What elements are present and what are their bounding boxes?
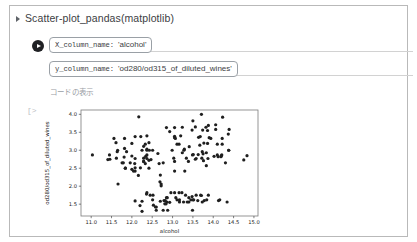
scatter-point (137, 115, 140, 118)
y-axis-tick-label: 3.5 (69, 129, 77, 135)
x-axis-tick-label: 12.0 (126, 219, 138, 225)
scatter-point (198, 144, 201, 147)
x-axis-label: alcohol (160, 228, 179, 234)
scatter-point (116, 182, 119, 185)
scatter-point (191, 209, 194, 212)
scatter-point (159, 200, 162, 203)
scatter-point (108, 153, 111, 156)
scatter-point (195, 194, 198, 197)
scatter-point (142, 145, 145, 148)
scatter-point (199, 135, 202, 138)
scatter-point (137, 174, 140, 177)
scatter-point (139, 135, 142, 138)
x-column-value[interactable]: 'alcohol' (118, 40, 146, 49)
scatter-point (138, 204, 141, 207)
scatter-point (217, 199, 220, 202)
scatter-point (132, 169, 135, 172)
scatter-point (242, 158, 245, 161)
scatter-point (221, 137, 224, 140)
scatter-point (224, 161, 227, 164)
scatter-point (115, 157, 118, 160)
scatter-point (162, 161, 165, 164)
scatter-point (140, 149, 143, 152)
y-column-label: y_column_name: (55, 65, 114, 73)
x-axis-tick-label: 11.5 (106, 219, 118, 225)
play-triangle-icon (37, 44, 41, 48)
scatter-point (201, 150, 204, 153)
scatter-point (194, 158, 197, 161)
scatter-point (191, 153, 194, 156)
scatter-point (133, 162, 136, 165)
scatter-point (134, 199, 137, 202)
scatter-point (140, 200, 143, 203)
scatter-points-group (91, 113, 249, 213)
scatter-point (206, 142, 209, 145)
y-axis-tick-label: 1.5 (69, 201, 77, 207)
scatter-point (182, 200, 185, 203)
x-column-label: X_column_name: (55, 41, 114, 49)
scatter-point (162, 209, 165, 212)
section-header[interactable]: Scatter-plot_pandas(matplotlib) (16, 12, 174, 24)
scatter-point (158, 162, 161, 165)
scatter-point (183, 148, 186, 151)
scatter-point (173, 160, 176, 163)
y-axis-tick-label: 3.0 (69, 147, 77, 153)
x-column-field[interactable]: X_column_name: 'alcohol' (49, 37, 152, 53)
scatter-point (160, 184, 163, 187)
scatter-point (187, 196, 190, 199)
scatter-point (179, 134, 182, 137)
scatter-point (200, 157, 203, 160)
scatter-point (134, 166, 137, 169)
scatter-point (214, 128, 217, 131)
scatter-point (205, 151, 208, 154)
scatter-point (164, 202, 167, 205)
scatter-point (91, 153, 94, 156)
x-axis-tick-label: 14.0 (207, 219, 219, 225)
scatter-point (145, 157, 148, 160)
play-circle-icon[interactable] (32, 40, 44, 52)
scatter-point (164, 199, 167, 202)
scatter-point (196, 199, 199, 202)
scatter-point (156, 152, 159, 155)
scatter-point (114, 141, 117, 144)
scatter-point (149, 194, 152, 197)
scatter-point (201, 200, 204, 203)
scatter-point (212, 155, 215, 158)
scatter-point (151, 198, 154, 201)
scatter-point (151, 149, 154, 152)
scatter-point (190, 195, 193, 198)
scatter-point (206, 129, 209, 132)
scatter-point (187, 200, 190, 203)
form-row-x-column: X_column_name: 'alcohol' (49, 37, 413, 53)
scatter-point (148, 149, 151, 152)
scatter-point (216, 143, 219, 146)
triangle-right-icon[interactable] (16, 16, 20, 22)
y-axis-tick-label: 4.0 (69, 111, 77, 117)
scatter-plot-figure: 11.011.512.012.513.013.514.014.515.01.52… (40, 102, 265, 240)
screenshot-root: Scatter-plot_pandas(matplotlib) X_column… (0, 0, 417, 242)
x-axis-tick-label: 15.0 (248, 219, 260, 225)
show-code-link[interactable]: コードの表示 (50, 86, 93, 97)
scatter-plot-svg: 11.011.512.012.513.013.514.014.515.01.52… (40, 102, 265, 240)
y-column-value[interactable]: 'od280/od315_of_diluted_wines' (118, 64, 232, 73)
output-prompt-marker: [> (27, 107, 37, 115)
scatter-point (206, 157, 209, 160)
scatter-point (155, 209, 158, 212)
scatter-point (181, 126, 184, 129)
scatter-point (130, 142, 133, 145)
scatter-point (214, 123, 217, 126)
scatter-point (158, 180, 161, 183)
scatter-point (180, 191, 183, 194)
y-column-field[interactable]: y_column_name: 'od280/od315_of_diluted_w… (49, 61, 238, 77)
y-axis-tick-label: 2.0 (69, 183, 77, 189)
y-axis-tick-label: 2.5 (69, 165, 77, 171)
scatter-point (202, 141, 205, 144)
scatter-point (145, 134, 148, 137)
scatter-point (209, 137, 212, 140)
x-axis-tick-label: 11.0 (85, 219, 97, 225)
scatter-point (178, 198, 181, 201)
scatter-point (205, 164, 208, 167)
scatter-point (187, 160, 190, 163)
scatter-point (124, 167, 127, 170)
scatter-point (221, 143, 224, 146)
